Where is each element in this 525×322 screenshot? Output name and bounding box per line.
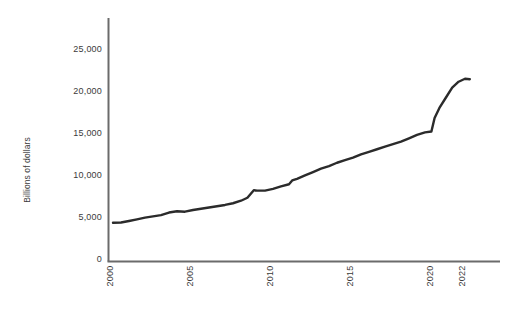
line-chart: Billions of dollars 0 5,000 10,000 15,00… bbox=[0, 0, 525, 322]
axis-lines bbox=[108, 18, 501, 262]
data-series-line bbox=[113, 79, 470, 223]
plot-area bbox=[0, 0, 525, 322]
